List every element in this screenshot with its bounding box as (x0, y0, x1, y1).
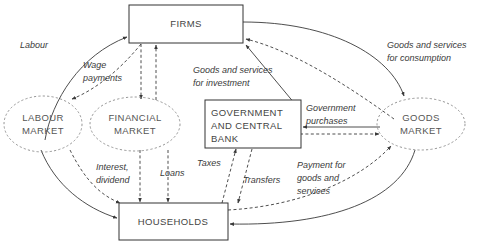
flow-label-goods-consumption-line2: for consumption (387, 53, 451, 63)
flow-label-interest-dividend-line2: dividend (96, 175, 131, 185)
flow-label-government-purchases-line2: purchases (305, 116, 348, 126)
node-government-label-line1: GOVERNMENT (211, 107, 283, 118)
node-goods-market-ellipse[interactable] (377, 98, 465, 150)
node-labour-market-label-line1: LABOUR (22, 112, 63, 123)
node-firms-label: FIRMS (170, 18, 202, 29)
flow-taxes-arrow (222, 149, 236, 203)
node-government-label-line2: AND CENTRAL (211, 120, 282, 131)
circular-flow-diagram: FIRMS GOVERNMENT AND CENTRAL BANK HOUSEH… (0, 0, 479, 246)
flow-goods-consumption-arrow (243, 22, 404, 96)
node-labour-market-label-line2: MARKET (22, 125, 64, 136)
flow-label-interest-dividend-line1: Interest, (96, 162, 129, 172)
flow-label-wage-payments-line1: Wage (83, 60, 106, 70)
node-goods-market-label-line2: MARKET (400, 125, 442, 136)
flow-label-loans: Loans (160, 168, 185, 178)
node-labour-market-ellipse[interactable] (4, 96, 82, 152)
flow-label-goods-investment-line1: Goods and services (193, 65, 273, 75)
flow-label-payment-goods-line1: Payment for (297, 160, 347, 170)
node-goods-market-label-line1: GOODS (402, 112, 439, 123)
flow-wage-payments-arrow (72, 44, 141, 99)
flow-label-transfers: Transfers (243, 175, 281, 185)
node-financial-market-label-line1: FINANCIAL (108, 112, 161, 123)
node-financial-market-label-line2: MARKET (114, 125, 156, 136)
flow-label-payment-goods-line3: services (297, 186, 331, 196)
flow-label-goods-consumption-line1: Goods and services (387, 40, 467, 50)
node-government-label-line3: BANK (211, 133, 239, 144)
flow-label-labour: Labour (20, 40, 49, 50)
flow-label-taxes: Taxes (197, 158, 221, 168)
node-financial-market-ellipse[interactable] (90, 97, 180, 151)
flow-label-wage-payments-line2: payments (82, 73, 123, 83)
node-households-label: HOUSEHOLDS (138, 216, 209, 227)
flow-label-government-purchases-line1: Government (306, 103, 356, 113)
flow-label-goods-investment-line2: for investment (193, 78, 250, 88)
flow-canvas: FIRMS GOVERNMENT AND CENTRAL BANK HOUSEH… (0, 0, 479, 246)
flow-label-payment-goods-line2: goods and (297, 173, 340, 183)
